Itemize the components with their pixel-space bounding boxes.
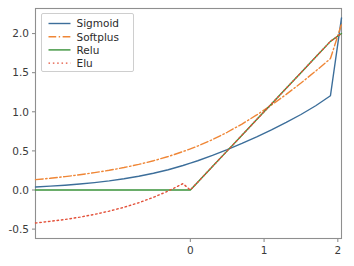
y-tick-label: 1.0 — [12, 106, 29, 118]
matplotlib-figure: 012-0.50.00.51.01.52.0 SigmoidSoftplusRe… — [0, 0, 354, 266]
y-tick-label: 0.5 — [12, 145, 29, 157]
y-tick-label: 0.0 — [12, 184, 29, 196]
legend-label-sigmoid[interactable]: Sigmoid — [77, 17, 119, 29]
legend-label-elu[interactable]: Elu — [77, 57, 93, 69]
legend-label-relu[interactable]: Relu — [77, 44, 100, 56]
x-tick-label: 2 — [334, 244, 341, 256]
x-tick-label: 0 — [187, 244, 194, 256]
activation-functions-line-chart: 012-0.50.00.51.01.52.0 SigmoidSoftplusRe… — [0, 0, 354, 266]
y-tick-label: -0.5 — [9, 223, 30, 235]
y-tick-label: 2.0 — [12, 27, 29, 39]
y-tick-label: 1.5 — [12, 66, 29, 78]
chart-legend[interactable]: SigmoidSoftplusReluElu — [42, 14, 134, 72]
x-tick-label: 1 — [261, 244, 268, 256]
legend-label-softplus[interactable]: Softplus — [77, 31, 119, 43]
